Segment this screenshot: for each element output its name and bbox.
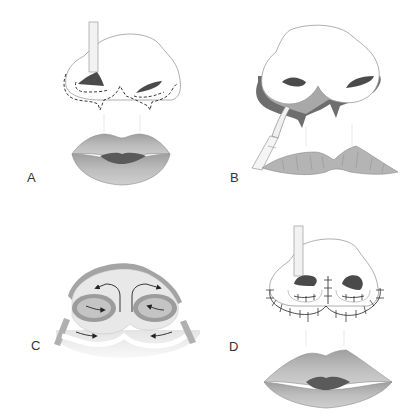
mouth-opening (306, 377, 350, 390)
lip-base-area (56, 330, 200, 358)
philtrum-lines (306, 124, 352, 146)
philtrum-lines (104, 114, 140, 132)
left-nostril-inner (77, 298, 111, 318)
lips-d (264, 350, 392, 408)
retractor-instrument (294, 226, 303, 276)
panel-label-b: B (230, 171, 239, 184)
panel-d (264, 226, 392, 408)
philtrum-lines (306, 330, 344, 346)
panel-c (54, 263, 200, 357)
panel-a (64, 22, 181, 185)
panel-label-a: A (27, 171, 36, 184)
panel-label-d: D (229, 340, 238, 353)
illustration-svg (0, 0, 419, 419)
panel-label-c: C (31, 339, 40, 352)
figure-canvas: A B C D (0, 0, 419, 419)
lips-a (72, 134, 170, 185)
panel-b (252, 25, 398, 174)
retractor-instrument (89, 22, 98, 72)
upper-lip (262, 146, 398, 175)
nose-outline (66, 34, 181, 100)
